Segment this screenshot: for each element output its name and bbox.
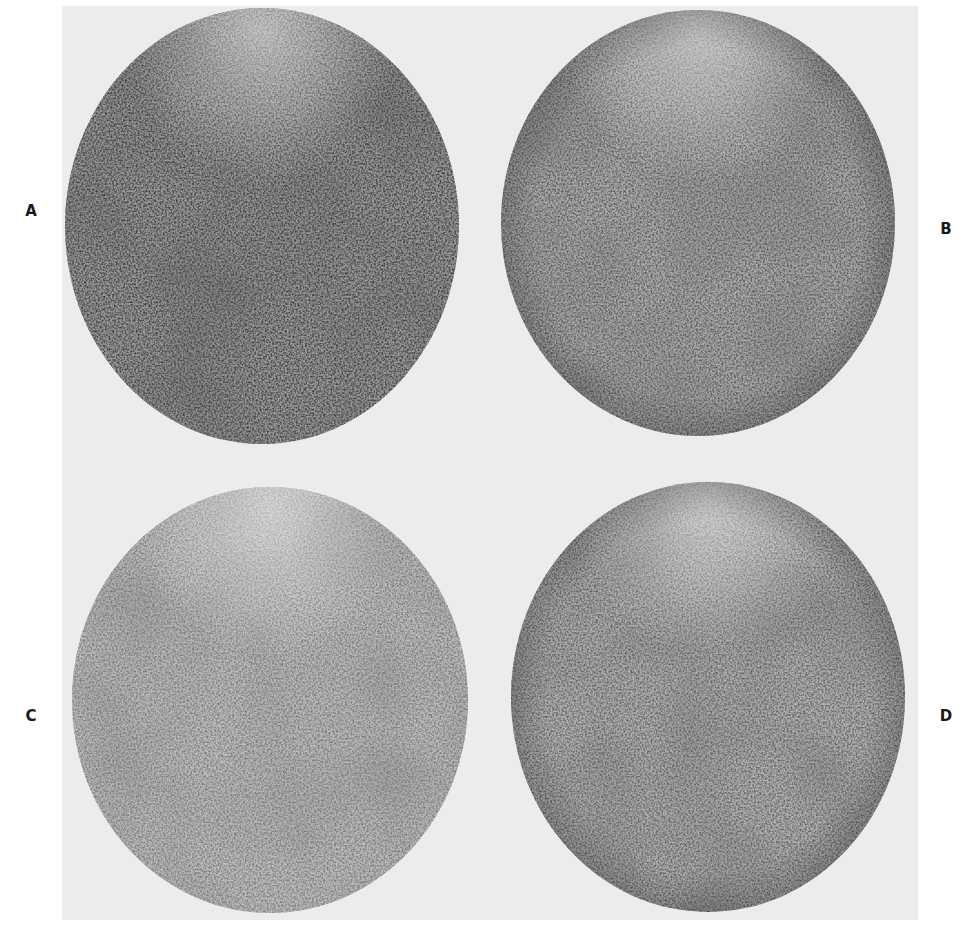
panel-label-b: B	[940, 220, 951, 238]
panel-label-c: C	[25, 707, 36, 725]
plate-image-a	[65, 8, 459, 444]
plate-images	[0, 0, 977, 949]
panel-label-a: A	[25, 202, 37, 220]
plate-image-d	[511, 482, 905, 912]
plate-image-b	[501, 10, 895, 436]
panel-label-d: D	[940, 707, 952, 725]
plate-image-c	[72, 487, 468, 913]
figure: A B C D	[0, 0, 977, 949]
